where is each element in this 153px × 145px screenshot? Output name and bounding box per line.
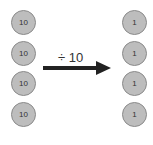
counter-one: 1 (122, 71, 147, 96)
divide-by-ten-label: ÷ 10 (58, 50, 83, 65)
counter-one: 1 (122, 102, 147, 127)
counter-one: 1 (122, 10, 147, 35)
counter-one: 1 (122, 41, 147, 66)
